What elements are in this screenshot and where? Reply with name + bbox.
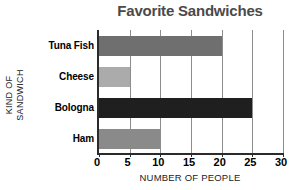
bar-ham: [99, 129, 160, 149]
chart-title: Favorite Sandwiches: [97, 2, 283, 19]
x-axis-tick-label: 10: [152, 156, 164, 168]
y-axis-title-line-2: SANDWICH: [15, 69, 26, 120]
bar-chart: Favorite Sandwiches KIND OF SANDWICH Tun…: [0, 0, 299, 190]
x-axis-tick-label: 25: [244, 156, 256, 168]
x-axis-tick-label: 5: [125, 156, 131, 168]
x-axis-tick-label: 20: [214, 156, 226, 168]
x-axis-tick-labels: 051015202530: [97, 156, 283, 170]
bar-tuna-fish: [99, 36, 222, 56]
category-label-ham: Ham: [28, 133, 94, 144]
category-label-bologna: Bologna: [28, 102, 94, 113]
gridline: [283, 30, 284, 153]
x-axis-tick-label: 0: [94, 156, 100, 168]
y-axis-title-line-1: KIND OF: [4, 69, 15, 120]
category-label-tuna-fish: Tuna Fish: [28, 40, 94, 51]
gridline: [222, 30, 223, 153]
x-axis-tick-label: 15: [183, 156, 195, 168]
category-label-cheese: Cheese: [28, 71, 94, 82]
x-axis-tick-label: 30: [275, 156, 287, 168]
bar-cheese: [99, 67, 130, 87]
plot-inner: [99, 30, 283, 153]
y-axis-title: KIND OF SANDWICH: [0, 36, 30, 154]
y-axis-title-text: KIND OF SANDWICH: [4, 69, 26, 120]
category-labels: Tuna FishCheeseBolognaHam: [28, 30, 96, 155]
gridline: [252, 30, 253, 153]
bar-bologna: [99, 98, 252, 118]
plot-area: [97, 30, 283, 155]
x-axis-title: NUMBER OF PEOPLE: [97, 172, 283, 183]
